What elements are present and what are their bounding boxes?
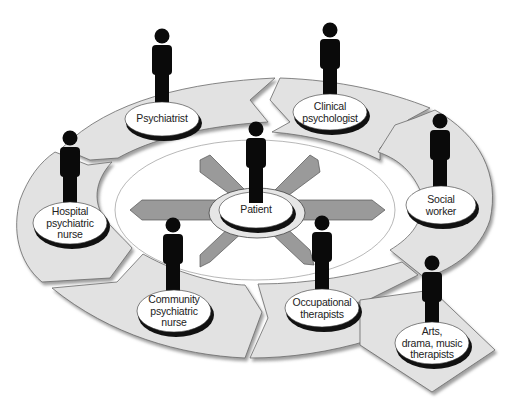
- label-line: Clinical: [302, 101, 357, 113]
- arrow-left: [130, 200, 218, 220]
- label-line: nurse: [148, 317, 199, 329]
- label-occupational-therapists: Occupational therapists: [293, 297, 352, 320]
- label-line: worker: [426, 205, 456, 217]
- person-icon-patient: [246, 122, 266, 204]
- person-icon-psychiatrist: [152, 29, 172, 109]
- label-line: Community: [148, 294, 199, 306]
- label-line: Occupational: [293, 297, 352, 309]
- label-line: Hospital: [46, 206, 93, 218]
- label-line: nurse: [46, 229, 93, 241]
- label-arts-drama-music-therapists: Arts, drama, music therapists: [402, 326, 463, 361]
- label-line: therapists: [293, 308, 352, 320]
- label-hospital-psychiatric-nurse: Hospital psychiatric nurse: [46, 206, 93, 241]
- label-social-worker: Social worker: [426, 194, 456, 217]
- label-clinical-psychologist: Clinical psychologist: [302, 101, 357, 124]
- label-line: Social: [426, 194, 456, 206]
- patient-label-text: Patient: [240, 204, 271, 216]
- label-line: psychologist: [302, 112, 357, 124]
- label-line: therapists: [402, 349, 463, 361]
- person-icon-clinical-psychologist: [320, 23, 340, 103]
- label-psychiatrist: Psychiatrist: [136, 113, 187, 125]
- label-line: Psychiatrist: [136, 113, 187, 125]
- label-patient: Patient: [240, 204, 271, 216]
- label-line: Arts,: [402, 326, 463, 338]
- label-community-psychiatric-nurse: Community psychiatric nurse: [148, 294, 199, 329]
